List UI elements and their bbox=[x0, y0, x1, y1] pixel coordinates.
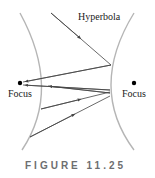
figure-caption: FIGURE 11.25 bbox=[25, 160, 126, 171]
rays bbox=[23, 13, 111, 137]
right-focus-label: Focus bbox=[122, 88, 146, 99]
left-branch bbox=[20, 13, 42, 150]
left-focus-dot bbox=[18, 81, 22, 85]
left-focus-label: Focus bbox=[8, 88, 32, 99]
right-branch bbox=[111, 13, 134, 150]
hyperbola-label: Hyperbola bbox=[78, 11, 121, 22]
hyperbola-diagram: Hyperbola Focus Focus FIGURE 11.25 bbox=[0, 0, 155, 178]
right-focus-dot bbox=[132, 81, 136, 85]
